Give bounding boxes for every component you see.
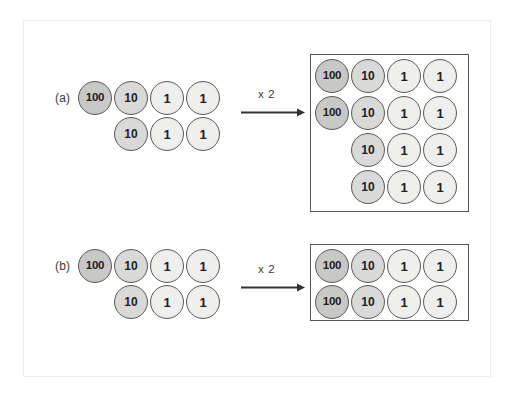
disc-1: 1 bbox=[387, 249, 421, 283]
disc-100: 100 bbox=[315, 285, 349, 319]
figure-root: (a) 100 10 1 1 10 1 1 x 2 100 10 1 1 100… bbox=[0, 0, 516, 398]
disc-1: 1 bbox=[387, 285, 421, 319]
disc-1: 1 bbox=[150, 249, 184, 283]
disc-100: 100 bbox=[78, 249, 112, 283]
disc-1: 1 bbox=[186, 285, 220, 319]
disc-1: 1 bbox=[423, 285, 457, 319]
disc-100: 100 bbox=[315, 249, 349, 283]
disc-10: 10 bbox=[114, 249, 148, 283]
disc-1: 1 bbox=[150, 285, 184, 319]
disc-10: 10 bbox=[351, 249, 385, 283]
disc-1: 1 bbox=[423, 249, 457, 283]
arrow-right-icon bbox=[241, 282, 305, 294]
part-b-operator-label: x 2 bbox=[258, 263, 275, 275]
disc-1: 1 bbox=[186, 249, 220, 283]
part-b-panel: (b) 100 10 1 1 10 1 1 x 2 100 10 1 1 100… bbox=[0, 0, 516, 398]
disc-10: 10 bbox=[351, 285, 385, 319]
disc-10: 10 bbox=[114, 285, 148, 319]
part-b-label: (b) bbox=[55, 259, 70, 273]
